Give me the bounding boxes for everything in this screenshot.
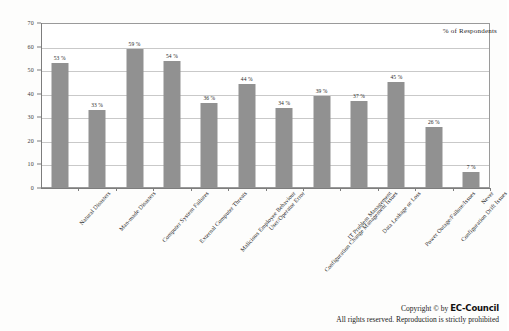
bar-value-label: 59 % [129,41,141,47]
y-tick-label: 0 [31,185,34,191]
bar[interactable] [126,49,143,188]
bar-value-label: 36 % [203,95,215,101]
y-axis-tick-labels: 010203040506070 [0,23,38,188]
y-tick-label: 60 [28,44,34,50]
x-tick-mark [378,188,379,191]
bar[interactable] [163,61,180,188]
x-tick-mark [153,188,154,191]
brand-ec-council: EC-Council [450,303,499,313]
footer-rights-text: All rights reserved. Reproduction is str… [336,314,499,325]
x-category-label: Natural Disasters [78,190,112,227]
x-tick-mark [340,188,341,191]
bar-value-label: 39 % [316,88,328,94]
bar-slot: 39 % [303,23,340,188]
bar[interactable] [388,82,405,188]
bar-slot: 7 % [453,23,490,188]
bar-value-label: 7 % [467,164,476,170]
bar-slot: 37 % [340,23,377,188]
bar[interactable] [51,63,68,188]
y-tick-label: 30 [28,114,34,120]
y-tick-label: 10 [28,161,34,167]
bar-value-label: 53 % [54,55,66,61]
bar-slot: 33 % [78,23,115,188]
x-tick-mark [415,188,416,191]
bar[interactable] [276,108,293,188]
bar-slot: 34 % [266,23,303,188]
x-tick-mark [228,188,229,191]
x-category-label: Power Outage/Failure/Issues [424,190,477,248]
bar-slot: 53 % [41,23,78,188]
bar-slot: 59 % [116,23,153,188]
y-tick-label: 40 [28,91,34,97]
footer: Copyright © by EC-Council All rights res… [336,303,499,325]
bar-value-label: 44 % [241,76,253,82]
x-category-label: Malicious Employee Behaviour [240,190,298,253]
bar-value-label: 54 % [166,53,178,59]
bar[interactable] [238,84,255,188]
x-axis-category-labels: Natural DisastersMan-made DisastersCompu… [41,190,490,285]
y-tick-label: 20 [28,138,34,144]
chart-legend: % of Respondents [443,27,497,35]
bar[interactable] [313,96,330,188]
x-category-label: Man-made Disasters [118,190,158,233]
y-tick-label: 70 [28,20,34,26]
footer-copyright-line: Copyright © by EC-Council [336,303,499,314]
bar-value-label: 26 % [428,119,440,125]
bar[interactable] [463,172,480,189]
bar[interactable] [89,110,106,188]
bar-value-label: 34 % [278,100,290,106]
bar-slot: 26 % [415,23,452,188]
x-tick-mark [266,188,267,191]
bar[interactable] [351,101,368,188]
bar-value-label: 45 % [391,74,403,80]
bar-slot: 54 % [153,23,190,188]
x-tick-mark [191,188,192,191]
x-tick-mark [303,188,304,191]
bar-value-label: 37 % [353,93,365,99]
bar[interactable] [425,127,442,188]
bar[interactable] [201,103,218,188]
bar-value-label: 33 % [91,102,103,108]
x-tick-mark [453,188,454,191]
x-tick-mark [490,188,491,191]
y-tick-label: 50 [28,67,34,73]
bar-slot: 36 % [191,23,228,188]
footer-copyright-text: Copyright © by [401,304,450,313]
x-tick-mark [78,188,79,191]
bar-slot: 45 % [378,23,415,188]
x-tick-mark [116,188,117,191]
bar-slot: 44 % [228,23,265,188]
bars-group: 53 %33 %59 %54 %36 %44 %34 %39 %37 %45 %… [41,23,490,188]
